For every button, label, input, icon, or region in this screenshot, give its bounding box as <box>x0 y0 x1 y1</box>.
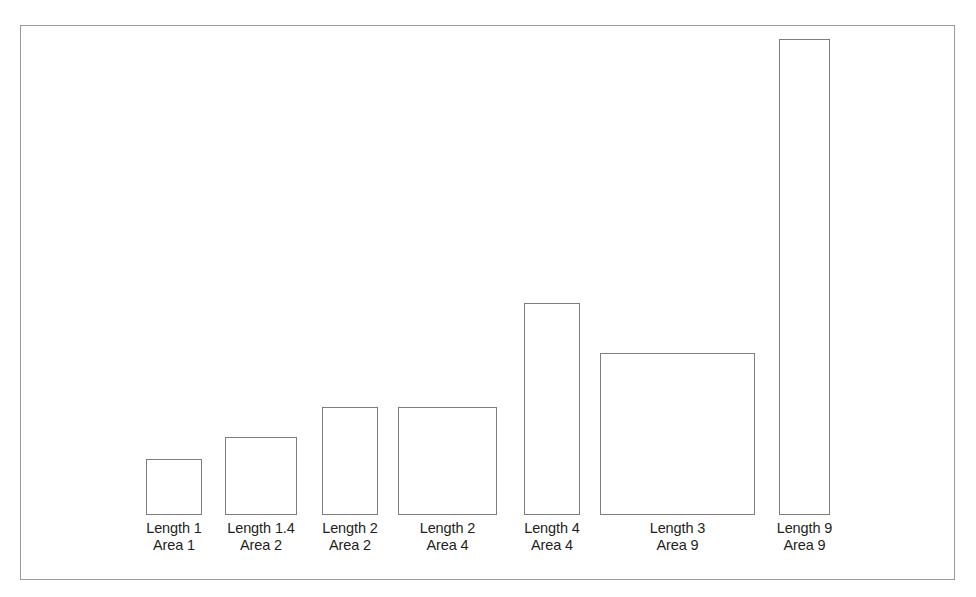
bar-3 <box>322 407 378 515</box>
bar-7-area-label: Area 9 <box>730 537 880 554</box>
bar-4 <box>398 407 497 515</box>
bar-7-length-label: Length 9 <box>730 520 880 537</box>
bar-chart-plot-area: Length 1 Area 1 Length 1.4 Area 2 Length… <box>0 0 976 597</box>
bar-6 <box>600 353 755 515</box>
bar-5 <box>524 303 580 515</box>
bar-7 <box>779 39 830 515</box>
bar-2 <box>225 437 297 515</box>
bar-7-label: Length 9 Area 9 <box>730 520 880 554</box>
bar-1 <box>146 459 202 515</box>
